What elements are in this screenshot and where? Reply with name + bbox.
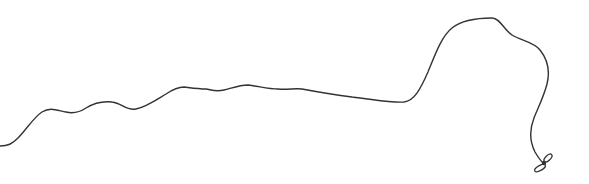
cord-drawing (0, 0, 589, 184)
knot-icon (534, 153, 554, 173)
drawing-canvas: Hand-drawn wavy line (cord) ending in a … (0, 0, 589, 184)
cord-line (0, 18, 548, 163)
knot-center (542, 161, 546, 165)
